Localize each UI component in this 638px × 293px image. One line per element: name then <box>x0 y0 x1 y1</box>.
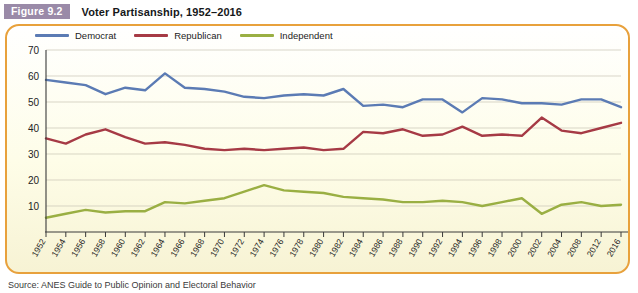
gridlines-group <box>46 50 621 206</box>
x-tick-label-1962: 1962 <box>129 237 147 259</box>
x-tick-label-2016: 2016 <box>605 237 623 259</box>
x-tick-label-2002: 2002 <box>525 237 543 259</box>
series-group <box>46 73 621 217</box>
source-label: Source: <box>8 280 39 290</box>
y-tick-label-60: 60 <box>28 71 40 82</box>
x-tick-label-1952: 1952 <box>30 237 48 259</box>
y-tick-label-40: 40 <box>28 123 40 134</box>
y-tick-label-70: 70 <box>28 45 40 56</box>
x-tick-label-2000: 2000 <box>505 237 523 259</box>
x-tick-label-1956: 1956 <box>69 237 87 259</box>
y-tick-label-10: 10 <box>28 201 40 212</box>
x-tick-label-1984: 1984 <box>347 237 365 259</box>
x-tick-label-1990: 1990 <box>406 237 424 259</box>
x-tick-label-1976: 1976 <box>267 237 285 259</box>
x-tick-label-1978: 1978 <box>287 237 305 259</box>
series-line-democrat <box>46 73 621 112</box>
x-tick-label-1954: 1954 <box>49 237 67 259</box>
source-text: ANES Guide to Public Opinion and Elector… <box>41 280 256 290</box>
x-tick-label-2008: 2008 <box>565 237 583 259</box>
source-footnote: Source: ANES Guide to Public Opinion and… <box>8 280 628 292</box>
plot-area: 10203040506070 1952195419561958196019621… <box>7 26 630 274</box>
y-tick-label-50: 50 <box>28 97 40 108</box>
x-tick-label-1994: 1994 <box>446 237 464 259</box>
x-tick-label-1992: 1992 <box>426 237 444 259</box>
x-tick-label-1968: 1968 <box>188 237 206 259</box>
figure-number-badge: Figure 9.2 <box>4 4 70 20</box>
x-tick-label-1996: 1996 <box>466 237 484 259</box>
x-tick-label-1964: 1964 <box>148 237 166 259</box>
x-tick-label-2004: 2004 <box>545 237 563 259</box>
x-axis-labels-group: 1952195419561958196019621964196619681970… <box>30 237 623 259</box>
x-tick-label-1986: 1986 <box>367 237 385 259</box>
x-axis-group <box>45 232 629 237</box>
x-tick-label-1966: 1966 <box>168 237 186 259</box>
figure-header: Figure 9.2 Voter Partisanship, 1952–2016 <box>0 0 638 20</box>
x-tick-label-1974: 1974 <box>248 237 266 259</box>
x-tick-label-1998: 1998 <box>486 237 504 259</box>
y-axis-labels-group: 10203040506070 <box>28 45 40 212</box>
figure-title: Voter Partisanship, 1952–2016 <box>82 6 242 18</box>
chart-panel: Democrat Republican Independent 10203040… <box>5 24 630 274</box>
x-tick-label-1982: 1982 <box>327 237 345 259</box>
x-tick-label-2012: 2012 <box>585 237 603 259</box>
x-tick-label-1980: 1980 <box>307 237 325 259</box>
x-tick-label-1970: 1970 <box>208 237 226 259</box>
x-tick-label-1988: 1988 <box>386 237 404 259</box>
line-chart-svg: 10203040506070 1952195419561958196019621… <box>7 26 630 274</box>
y-tick-label-20: 20 <box>28 175 40 186</box>
x-tick-label-1960: 1960 <box>109 237 127 259</box>
x-tick-label-1958: 1958 <box>89 237 107 259</box>
x-tick-label-1972: 1972 <box>228 237 246 259</box>
series-line-independent <box>46 185 621 218</box>
y-tick-label-30: 30 <box>28 149 40 160</box>
series-line-republican <box>46 118 621 151</box>
